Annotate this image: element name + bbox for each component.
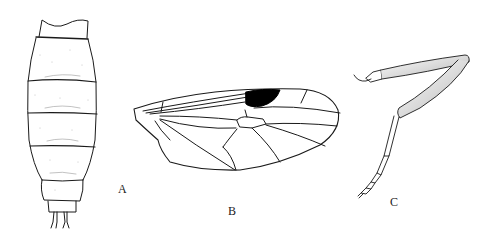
panel-label-a: A xyxy=(118,183,127,195)
panel-c-leg-drawing xyxy=(0,0,498,242)
scientific-figure: A B C xyxy=(0,0,498,242)
panel-label-b: B xyxy=(228,205,236,217)
panel-label-c: C xyxy=(390,196,398,208)
